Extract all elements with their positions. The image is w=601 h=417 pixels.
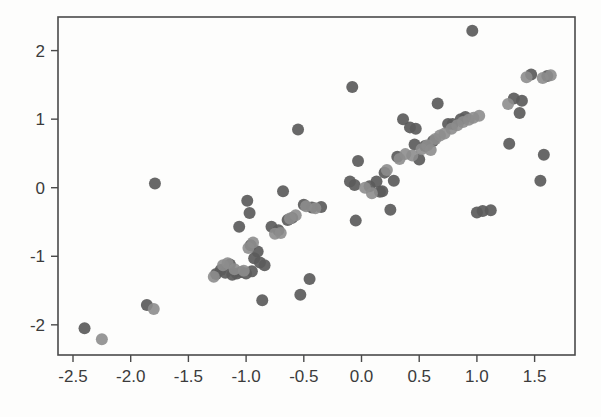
y-axis-ticks: 210-1-2 — [30, 42, 58, 335]
scatter-point — [352, 155, 364, 167]
plot-canvas: -2.5-2.0-1.5-1.0-0.50.00.51.01.5 210-1-2 — [0, 0, 601, 417]
scatter-point — [294, 289, 306, 301]
scatter-point — [516, 95, 528, 107]
x-tick-label: 0.5 — [407, 367, 431, 386]
scatter-point — [247, 237, 259, 249]
y-tick-label: 1 — [36, 110, 45, 129]
x-tick-label: -2.5 — [58, 367, 87, 386]
y-tick-label: -2 — [30, 316, 45, 335]
scatter-point — [388, 175, 400, 187]
scatter-point — [384, 204, 396, 216]
scatter-point — [79, 322, 91, 334]
scatter-point — [346, 81, 358, 93]
scatter-point — [545, 69, 557, 81]
x-tick-label: 1.5 — [523, 367, 547, 386]
y-tick-label: -1 — [30, 247, 45, 266]
scatter-point — [149, 178, 161, 190]
scatter-point — [521, 71, 533, 83]
x-tick-label: 1.0 — [465, 367, 489, 386]
scatter-point — [485, 204, 497, 216]
scatter-point — [466, 25, 478, 37]
scatter-point — [534, 175, 546, 187]
scatter-point — [432, 97, 444, 109]
x-tick-label: -1.5 — [174, 367, 203, 386]
x-tick-label: -0.5 — [289, 367, 318, 386]
scatter-plot-figure: -2.5-2.0-1.5-1.0-0.50.00.51.01.5 210-1-2 — [0, 0, 601, 417]
x-tick-label: 0.0 — [350, 367, 374, 386]
scatter-point — [304, 273, 316, 285]
scatter-point — [259, 259, 271, 271]
scatter-point — [366, 187, 378, 199]
scatter-point — [514, 107, 526, 119]
scatter-point — [275, 227, 287, 239]
axes-frame — [58, 17, 575, 355]
plot-frame — [58, 17, 575, 355]
scatter-point — [502, 98, 514, 110]
y-tick-label: 0 — [36, 179, 45, 198]
x-tick-label: -2.0 — [116, 367, 145, 386]
scatter-point — [96, 333, 108, 345]
scatter-point — [309, 202, 321, 214]
scatter-point — [381, 164, 393, 176]
scatter-point — [233, 221, 245, 233]
scatter-point — [473, 110, 485, 122]
scatter-point — [290, 209, 302, 221]
scatter-point — [208, 271, 220, 283]
scatter-point — [292, 123, 304, 135]
x-tick-label: -1.0 — [231, 367, 260, 386]
scatter-point — [503, 138, 515, 150]
data-points — [79, 25, 557, 346]
scatter-point — [256, 294, 268, 306]
scatter-point — [277, 185, 289, 197]
x-axis-ticks: -2.5-2.0-1.5-1.0-0.50.00.51.01.5 — [58, 355, 546, 386]
scatter-point — [238, 265, 250, 277]
scatter-point — [241, 195, 253, 207]
scatter-point — [244, 207, 256, 219]
scatter-point — [350, 215, 362, 227]
scatter-point — [148, 303, 160, 315]
y-tick-label: 2 — [36, 42, 45, 61]
scatter-point — [376, 185, 388, 197]
scatter-point — [425, 144, 437, 156]
scatter-point — [538, 149, 550, 161]
scatter-point — [410, 123, 422, 135]
scatter-point — [349, 179, 361, 191]
